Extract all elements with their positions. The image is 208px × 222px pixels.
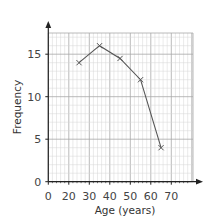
x-tick-label: 0 (45, 190, 52, 203)
x-tick-label: 20 (62, 190, 76, 203)
y-tick-label: 5 (34, 133, 41, 146)
x-tick-label: 60 (144, 190, 158, 203)
y-axis-title: Frequency (11, 80, 23, 134)
x-axis-title: Age (years) (95, 204, 156, 216)
y-tick-label: 0 (34, 176, 41, 189)
x-ticks: 0203040506070 (45, 182, 188, 203)
y-ticks: 051015 (27, 48, 48, 189)
y-tick-label: 10 (27, 91, 41, 104)
x-tick-label: 30 (82, 190, 96, 203)
x-tick-label: 50 (123, 190, 137, 203)
x-tick-label: 40 (103, 190, 117, 203)
x-tick-label: 70 (164, 190, 178, 203)
y-axis-arrow-icon (45, 21, 51, 28)
x-axis-arrow-icon (196, 179, 203, 185)
frequency-polygon-chart: 0203040506070 051015 Age (years) Frequen… (0, 0, 208, 222)
grid (48, 33, 193, 182)
y-tick-label: 15 (27, 48, 41, 61)
